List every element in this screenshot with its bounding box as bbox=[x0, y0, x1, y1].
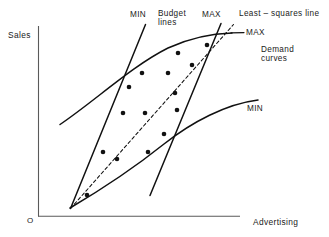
chart-figure: Sales Advertising O MIN Budgetlines MAX … bbox=[0, 0, 329, 237]
scatter-points bbox=[85, 43, 210, 198]
data-point bbox=[101, 150, 106, 155]
y-axis-label: Sales bbox=[8, 31, 31, 41]
data-point bbox=[190, 63, 195, 68]
data-point bbox=[143, 111, 148, 116]
demand-curves-label: Demandcurves bbox=[261, 45, 294, 64]
demand-curves-label-line1: Demand bbox=[261, 45, 294, 54]
data-point bbox=[173, 91, 178, 96]
budget-line-min bbox=[71, 25, 146, 209]
budget-lines-label-line2: lines bbox=[158, 18, 177, 27]
budget-lines-label-line1: Budget bbox=[158, 9, 186, 18]
origin-label: O bbox=[27, 216, 34, 226]
data-point bbox=[162, 132, 167, 137]
budget-line-max bbox=[150, 24, 221, 196]
axis-lines bbox=[38, 26, 240, 217]
data-point bbox=[127, 85, 132, 90]
demand-curve-min-label: MIN bbox=[247, 104, 263, 114]
demand-curves-label-line2: curves bbox=[261, 54, 287, 63]
demand-curve-max-label: MAX bbox=[246, 28, 265, 38]
data-point bbox=[121, 111, 126, 116]
least-squares-line-label: Least – squares line bbox=[239, 9, 319, 19]
x-axis-label: Advertising bbox=[253, 218, 298, 228]
budget-line-min-label: MIN bbox=[130, 10, 146, 20]
data-point bbox=[146, 150, 151, 155]
data-point bbox=[140, 71, 145, 76]
data-point bbox=[205, 43, 210, 48]
data-point bbox=[85, 193, 90, 198]
demand-curve-min bbox=[70, 100, 258, 208]
chart-canvas bbox=[0, 0, 329, 237]
data-point bbox=[115, 157, 120, 162]
least-squares-line bbox=[71, 25, 234, 209]
budget-line-max-label: MAX bbox=[202, 10, 221, 20]
data-point bbox=[176, 51, 181, 56]
budget-lines-label: Budgetlines bbox=[158, 9, 186, 28]
data-point bbox=[175, 108, 180, 113]
data-point bbox=[166, 71, 171, 76]
